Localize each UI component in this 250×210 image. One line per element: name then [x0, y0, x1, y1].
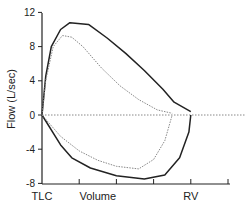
normal-loop-inspiratory-curve: [42, 115, 191, 179]
comparison-loop-inspiratory-curve: [42, 115, 172, 169]
y-tick-label: 12: [24, 7, 36, 18]
y-tick-label: -8: [26, 178, 35, 189]
series-layer: [42, 23, 191, 179]
y-axis-label: Flow (L/sec): [5, 69, 17, 129]
x-annotations: TLCVolumeRV: [32, 190, 199, 202]
x-annotation-tlc: TLC: [32, 190, 53, 202]
y-tick-label: 8: [29, 41, 35, 52]
x-annotation-rv: RV: [183, 190, 199, 202]
flow-volume-chart: 12840-4-8 Flow (L/sec) TLCVolumeRV: [0, 0, 250, 210]
normal-loop-expiratory-curve: [42, 23, 191, 115]
comparison-loop-expiratory-curve: [42, 36, 172, 116]
y-tick-label: -4: [26, 144, 35, 155]
y-ticks: 12840-4-8: [24, 7, 42, 189]
y-tick-label: 0: [29, 110, 35, 121]
x-annotation-volume: Volume: [79, 190, 116, 202]
y-tick-label: 4: [29, 75, 35, 86]
x-ticks: [79, 179, 228, 184]
